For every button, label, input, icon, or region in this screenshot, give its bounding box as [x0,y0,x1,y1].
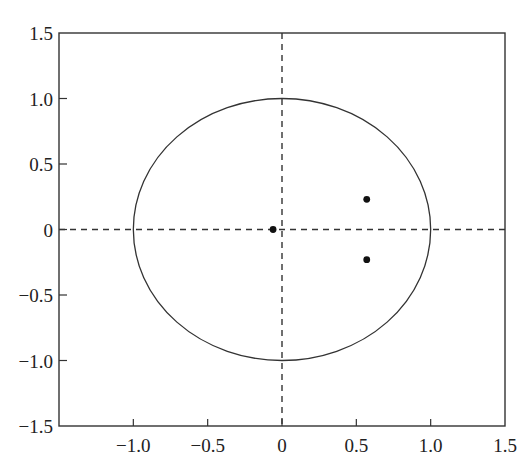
x-tick-label: −1.0 [116,435,150,456]
y-tick-label: 0.5 [29,154,53,175]
x-tick-label: 0.5 [344,435,368,456]
chart: −1.0−0.500.51.01.51.51.00.50−0.5−1.0−1.5 [0,0,527,475]
axes: −1.0−0.500.51.01.51.51.00.50−0.5−1.0−1.5 [19,23,517,456]
x-tick-label: 0 [277,435,287,456]
y-tick-label: 1.0 [29,89,53,110]
y-tick-label: −1.0 [19,351,53,372]
y-tick-label: −0.5 [19,285,53,306]
y-tick-label: 0 [44,220,54,241]
pole-point [363,256,370,263]
x-tick-label: 1.5 [493,435,517,456]
x-tick-label: −0.5 [190,435,224,456]
y-tick-label: 1.5 [29,23,53,44]
pole-point [363,196,370,203]
pole-point [270,226,277,233]
x-tick-label: 1.0 [419,435,443,456]
y-tick-label: −1.5 [19,416,53,437]
plot-area [59,33,505,426]
